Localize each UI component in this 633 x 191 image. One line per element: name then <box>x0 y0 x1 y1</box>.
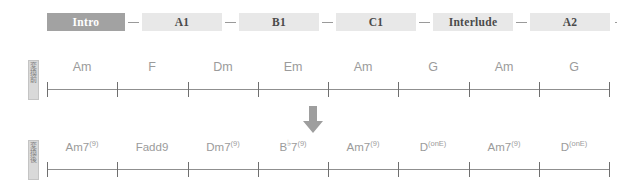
measure-tick <box>188 162 189 177</box>
chord-label: Dm <box>188 60 258 75</box>
staff-original: AmFDmEmAmGAmG <box>47 58 593 106</box>
form-separator <box>225 22 236 23</box>
staff-reharm: Am7(9)Fadd9Dm7(9)B♭7(9)Am7(9)D(onE)Am7(9… <box>47 138 593 186</box>
measure-tick <box>258 82 259 97</box>
down-arrow-icon <box>300 106 326 134</box>
chord-label: G <box>539 60 609 75</box>
chord-extension: (onE) <box>428 139 446 148</box>
measure-tick <box>539 82 540 97</box>
chord-label: Am <box>328 60 398 75</box>
form-section-b1[interactable]: B1 <box>239 13 319 31</box>
measure-tick <box>188 82 189 97</box>
song-form-timeline: IntroA1B1C1InterludeA2 <box>47 11 617 33</box>
form-timeline-tail <box>615 22 617 23</box>
measure-tick <box>258 162 259 177</box>
measure-tick <box>398 162 399 177</box>
chord-extension: (onE) <box>569 139 587 148</box>
measure-tick <box>469 162 470 177</box>
chord-row-original: 変換前 AmFDmEmAmGAmG <box>28 58 593 106</box>
flat-symbol: ♭ <box>287 138 291 148</box>
row-label-reharm-text: 変換後 <box>29 141 38 163</box>
row-label-original: 変換前 <box>28 60 39 100</box>
measure-tick <box>398 82 399 97</box>
form-section-a1[interactable]: A1 <box>142 13 222 31</box>
chord-label: Am7(9) <box>328 140 398 155</box>
measure-tick <box>609 82 610 97</box>
chord-label: Dm7(9) <box>188 140 258 155</box>
chord-label: D(onE) <box>539 140 609 155</box>
row-label-original-text: 変換前 <box>29 61 38 83</box>
chord-label: Am <box>469 60 539 75</box>
chord-label: Am7(9) <box>469 140 539 155</box>
chord-extension: (9) <box>511 139 520 148</box>
row-label-reharm: 変換後 <box>28 140 39 180</box>
form-section-a2[interactable]: A2 <box>530 13 610 31</box>
chord-label: B♭7(9) <box>258 140 328 155</box>
form-section-interlude[interactable]: Interlude <box>433 13 513 31</box>
measure-tick <box>469 82 470 97</box>
measure-tick <box>328 82 329 97</box>
measure-tick <box>47 162 48 177</box>
chord-label: F <box>117 60 187 75</box>
measure-tick <box>117 82 118 97</box>
chord-row-reharm: 変換後 Am7(9)Fadd9Dm7(9)B♭7(9)Am7(9)D(onE)A… <box>28 138 593 186</box>
form-section-intro[interactable]: Intro <box>47 13 125 31</box>
chord-extension: (9) <box>297 139 306 148</box>
chord-label: D(onE) <box>398 140 468 155</box>
chord-extension: (9) <box>370 139 379 148</box>
measure-tick <box>328 162 329 177</box>
chord-label: Am <box>47 60 117 75</box>
measure-tick <box>609 162 610 177</box>
form-separator <box>419 22 430 23</box>
chord-label: Am7(9) <box>47 140 117 155</box>
form-section-c1[interactable]: C1 <box>336 13 416 31</box>
form-separator <box>128 22 139 23</box>
chord-extension: (9) <box>231 139 240 148</box>
measure-tick <box>47 82 48 97</box>
form-separator <box>516 22 527 23</box>
measure-tick <box>539 162 540 177</box>
chord-extension: (9) <box>89 139 98 148</box>
form-separator <box>322 22 333 23</box>
chord-label: Em <box>258 60 328 75</box>
chord-label: Fadd9 <box>117 140 187 155</box>
measure-tick <box>117 162 118 177</box>
chord-label: G <box>398 60 468 75</box>
